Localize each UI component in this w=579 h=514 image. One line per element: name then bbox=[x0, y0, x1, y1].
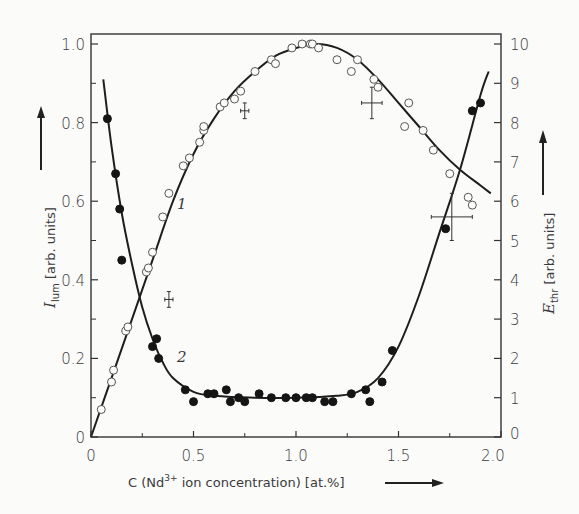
open-circle-point bbox=[446, 170, 454, 178]
y-right-symbol: E bbox=[540, 303, 558, 315]
curve-label-2: 2 bbox=[176, 348, 187, 366]
y-right-tick-label: 10 bbox=[510, 36, 529, 54]
open-circle-point bbox=[200, 123, 208, 131]
x-tick-label: 0.5 bbox=[182, 447, 206, 465]
filled-circle-point bbox=[210, 390, 218, 398]
y-left-tick-label: 0.4 bbox=[61, 272, 85, 290]
open-circle-point bbox=[405, 99, 413, 107]
filled-circle-point bbox=[308, 394, 316, 402]
filled-circle-point bbox=[226, 398, 234, 406]
y-left-tick-label: 0.6 bbox=[61, 193, 85, 211]
open-circle-point bbox=[429, 146, 437, 154]
filled-circle-point bbox=[347, 390, 355, 398]
error-bar bbox=[241, 103, 249, 119]
filled-circle-point bbox=[181, 386, 189, 394]
filled-circle-point bbox=[190, 398, 198, 406]
error-bar bbox=[165, 292, 173, 308]
y-right-tick-label: 2 bbox=[510, 350, 520, 368]
filled-circle-point bbox=[153, 335, 161, 343]
y-axis-left-arrow-icon bbox=[37, 106, 45, 170]
filled-circle-point bbox=[149, 343, 157, 351]
open-circle-point bbox=[347, 68, 355, 76]
open-circle-point bbox=[196, 138, 204, 146]
curve-label-1: 1 bbox=[177, 195, 187, 213]
open-circle-point bbox=[144, 264, 152, 272]
y-right-tick-label: 7 bbox=[510, 154, 520, 172]
svg-text:Ilum [arb. units]: Ilum [arb. units] bbox=[41, 207, 61, 309]
filled-circle-point bbox=[321, 398, 329, 406]
y-right-tick-label: 0 bbox=[510, 425, 520, 443]
y-right-tick-label: 8 bbox=[510, 115, 520, 133]
x-axis-arrow-icon bbox=[385, 479, 444, 487]
open-circle-point bbox=[108, 378, 116, 386]
filled-circle-point bbox=[112, 170, 120, 178]
error-bar bbox=[362, 87, 383, 118]
y-right-subscript: thr bbox=[549, 288, 560, 303]
filled-circle-point bbox=[282, 394, 290, 402]
filled-circle-point bbox=[329, 398, 337, 406]
fit-curves bbox=[91, 44, 491, 437]
filled-circle-point bbox=[366, 398, 374, 406]
y-right-tick-label: 1 bbox=[510, 390, 520, 408]
filled-circle-point bbox=[241, 398, 249, 406]
open-circle-point bbox=[220, 99, 228, 107]
y-right-tick-label: 4 bbox=[510, 272, 520, 290]
y-right-tick-label: 3 bbox=[510, 311, 520, 329]
curve-labels: 12 bbox=[176, 195, 187, 366]
y-left-tick-label: 0 bbox=[75, 429, 85, 447]
chart: 00.51.01.52.000.20.40.60.81.001234567891… bbox=[0, 0, 579, 514]
filled-circle-point bbox=[442, 225, 450, 233]
y-axis-right-title: Ethr [arb. units] bbox=[540, 213, 560, 315]
filled-circle-point bbox=[362, 386, 370, 394]
open-circle-point bbox=[333, 56, 341, 64]
y-right-tick-label: 9 bbox=[510, 75, 520, 93]
x-tick-label: 2.0 bbox=[481, 447, 505, 465]
open-circle-point bbox=[237, 87, 245, 95]
open-circle-point bbox=[288, 44, 296, 52]
open-circle-point bbox=[464, 193, 472, 201]
open-circle-point bbox=[231, 95, 239, 103]
x-tick-label: 1.5 bbox=[387, 447, 411, 465]
open-circle-point bbox=[179, 162, 187, 170]
filled-circle-point bbox=[103, 115, 111, 123]
y-right-tick-label: 6 bbox=[510, 193, 520, 211]
filled-circle-point bbox=[477, 99, 485, 107]
filled-circle-point bbox=[388, 347, 396, 355]
open-circle-point bbox=[298, 40, 306, 48]
svg-text:Ethr [arb. units]: Ethr [arb. units] bbox=[540, 213, 560, 315]
open-circle-point bbox=[272, 60, 280, 68]
x-title-prefix: C (Nd bbox=[128, 475, 164, 490]
filled-circle-point bbox=[116, 205, 124, 213]
y-right-units: [arb. units] bbox=[542, 213, 557, 289]
y-left-tick-label: 0.8 bbox=[61, 115, 85, 133]
filled-circle-point bbox=[292, 394, 300, 402]
y-left-units: [arb. units] bbox=[43, 207, 58, 283]
filled-circle-point bbox=[155, 354, 163, 362]
open-circle-point bbox=[165, 189, 173, 197]
x-title-suffix: ion concentration) [at.%] bbox=[178, 475, 345, 490]
open-circle-point bbox=[110, 366, 118, 374]
open-circle-point bbox=[315, 44, 323, 52]
open-circle-point bbox=[401, 123, 409, 131]
filled-circle-point bbox=[118, 256, 126, 264]
open-circle-point bbox=[251, 68, 259, 76]
y-left-tick-label: 1.0 bbox=[61, 36, 85, 54]
open-circle-point bbox=[97, 405, 105, 413]
x-title-superscript: 3+ bbox=[164, 473, 177, 483]
x-tick-label: 1.0 bbox=[284, 447, 308, 465]
filled-circle-point bbox=[255, 390, 263, 398]
open-circle-point bbox=[468, 201, 476, 209]
filled-circle-point bbox=[267, 394, 275, 402]
open-circle-point bbox=[374, 83, 382, 91]
open-circle-point bbox=[370, 75, 378, 83]
open-circle-point bbox=[159, 213, 167, 221]
y-left-tick-label: 0.2 bbox=[61, 350, 85, 368]
y-right-tick-label: 5 bbox=[510, 233, 520, 251]
open-circle-point bbox=[149, 248, 157, 256]
open-circle-point bbox=[354, 56, 362, 64]
y-left-subscript: lum bbox=[50, 283, 61, 302]
fit-curve-1 bbox=[91, 44, 491, 437]
open-circle-point bbox=[124, 323, 132, 331]
filled-circle-point bbox=[468, 107, 476, 115]
filled-circle-point bbox=[378, 378, 386, 386]
